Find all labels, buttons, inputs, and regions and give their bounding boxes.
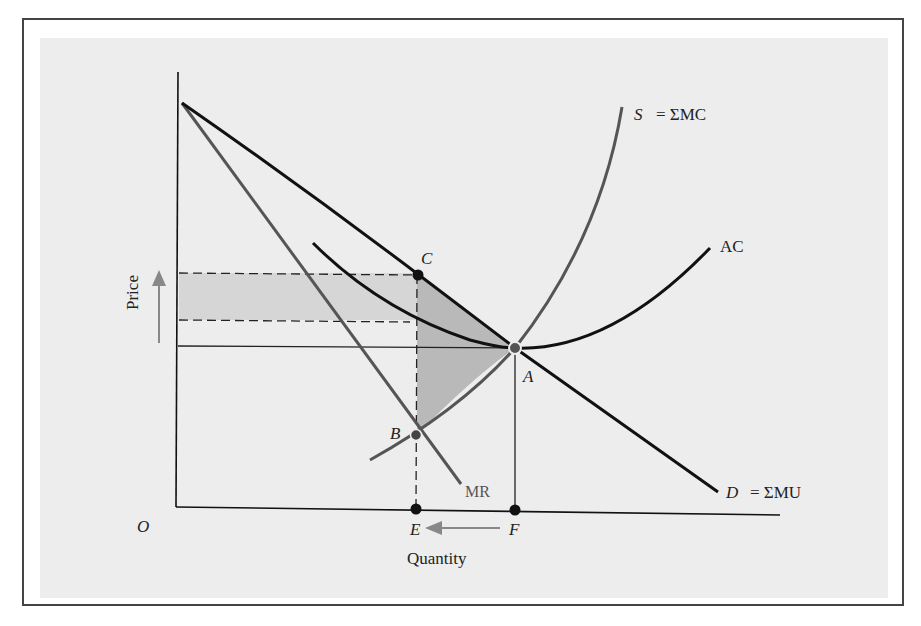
- point-f: [510, 505, 521, 516]
- origin-label: O: [137, 517, 149, 536]
- ac-at-e-dashed-line: [179, 320, 410, 322]
- demand-label-mu: = ΣMU: [750, 483, 801, 502]
- point-e: [411, 504, 422, 515]
- point-c: [413, 270, 424, 281]
- supply-label-s: S: [634, 105, 643, 124]
- x-axis-label: Quantity: [407, 549, 467, 568]
- point-c-label: C: [421, 249, 433, 268]
- point-b-label: B: [390, 424, 401, 443]
- ac-label: AC: [720, 237, 744, 256]
- x-axis: [176, 507, 780, 515]
- point-a-label: A: [522, 367, 534, 386]
- quantity-left-arrow-icon: [425, 521, 442, 535]
- point-e-label: E: [409, 520, 421, 539]
- y-axis: [176, 72, 178, 507]
- supply-label-mc: = ΣMC: [656, 105, 706, 124]
- deadweight-loss-area: [417, 275, 515, 435]
- price-up-arrow-icon: [152, 270, 166, 286]
- point-a: [509, 342, 521, 354]
- point-f-label: F: [508, 520, 520, 539]
- demand-label-d: D: [725, 483, 739, 502]
- y-axis-label: Price: [123, 275, 142, 310]
- economics-diagram: Price Quantity O S = ΣMC AC D = ΣMU MR C…: [0, 0, 921, 626]
- point-b: [411, 430, 422, 441]
- mr-label: MR: [465, 483, 490, 500]
